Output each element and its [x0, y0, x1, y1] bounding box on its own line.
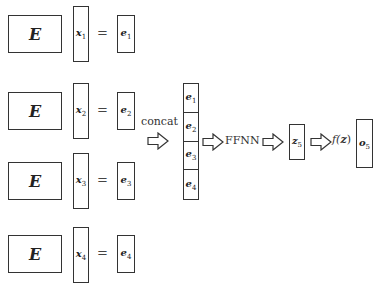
concat-arrow-icon: [147, 132, 169, 150]
embedding-vector-4: e4: [117, 235, 135, 273]
input-label: x4: [76, 248, 86, 262]
matrix-label: E: [29, 102, 41, 121]
hidden-label: z5: [292, 135, 302, 149]
activation-arrow-icon: [310, 133, 332, 151]
input-label: x3: [76, 174, 86, 188]
ffnn-arrow-icon: [202, 133, 224, 151]
embedding-vector-2: e2: [117, 92, 135, 130]
concat-cell-1: e1: [184, 84, 198, 113]
concat-cell-4: e4: [184, 170, 198, 199]
activation-label: f(z): [332, 133, 351, 146]
output-label: o5: [359, 137, 370, 151]
input-vector-2: x2: [73, 83, 89, 139]
matrix-label: E: [29, 245, 41, 264]
output-vector: o5: [356, 119, 373, 168]
embedding-matrix-1: E: [8, 15, 62, 53]
input-vector-3: x3: [73, 153, 89, 209]
embedding-vector-1: e1: [117, 15, 135, 53]
embed-label: e1: [121, 27, 132, 41]
embed-label: e2: [121, 104, 132, 118]
embed-label: e3: [121, 174, 132, 188]
hidden-vector: z5: [289, 124, 305, 160]
concat-cell-2: e2: [184, 113, 198, 142]
embedding-matrix-2: E: [8, 92, 62, 130]
embedding-matrix-3: E: [8, 162, 62, 200]
ffnn-label: FFNN: [225, 134, 260, 147]
input-label: x2: [76, 104, 86, 118]
embedding-vector-3: e3: [117, 162, 135, 200]
equals-sign-4: =: [97, 245, 108, 260]
input-vector-4: x4: [73, 227, 89, 283]
concatenated-vector: e1 e2 e3 e4: [183, 83, 199, 200]
hidden-arrow-icon: [262, 133, 284, 151]
input-vector-1: x1: [73, 6, 89, 62]
concat-label: concat: [141, 115, 178, 128]
embedding-matrix-4: E: [8, 235, 62, 273]
concat-cell-3: e3: [184, 142, 198, 171]
input-label: x1: [76, 27, 86, 41]
equals-sign-3: =: [97, 172, 108, 187]
matrix-label: E: [29, 25, 41, 44]
matrix-label: E: [29, 172, 41, 191]
equals-sign-1: =: [97, 25, 108, 40]
embed-label: e4: [121, 247, 132, 261]
equals-sign-2: =: [97, 102, 108, 117]
